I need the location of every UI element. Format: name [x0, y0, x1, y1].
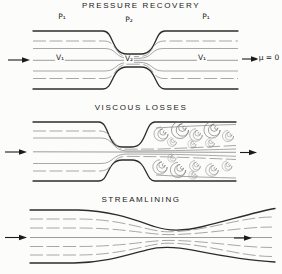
outflow-arrow-icon	[234, 235, 252, 241]
pressure-label-upstream: P₁	[57, 13, 67, 21]
outflow-arrow-icon	[240, 150, 257, 156]
viscous-losses-tube	[5, 121, 257, 181]
velocity-label-downstream: V₁	[197, 54, 207, 62]
outflow-arrow-icon	[242, 56, 259, 62]
pressure-label-downstream: P₁	[201, 13, 211, 21]
figure-canvas: PRESSURE RECOVERY VISCOUS LOSSES STREAML…	[0, 0, 282, 274]
pressure-recovery-title: PRESSURE RECOVERY	[0, 1, 282, 10]
viscous-losses-title: VISCOUS LOSSES	[0, 103, 282, 112]
streamlines	[30, 217, 272, 257]
velocity-label-upstream: V₁	[55, 54, 65, 62]
inflow-arrow-icon	[8, 57, 30, 63]
inflow-arrow-icon	[5, 149, 27, 155]
velocity-label-throat: V₂	[124, 55, 134, 63]
viscosity-zero-label: μ = 0	[258, 54, 281, 62]
streamlining-title: STREAMLINING	[0, 195, 282, 204]
flow-diagrams	[0, 0, 282, 274]
streamlining-tube	[5, 209, 275, 264]
inflow-arrow-icon	[5, 235, 27, 241]
pressure-label-throat: P₂	[124, 16, 134, 24]
